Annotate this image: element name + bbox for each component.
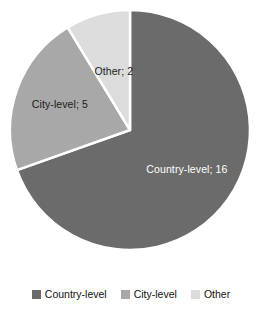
legend-swatch-other-icon [191, 290, 200, 299]
legend-label-other: Other [204, 289, 230, 300]
pie-chart-svg: Country-level; 16 City-level; 5 Other; 2 [0, 0, 262, 262]
legend-label-city-level: City-level [134, 289, 177, 300]
pie-label-other: Other; 2 [94, 65, 133, 77]
chart-legend: Country-level City-level Other [0, 283, 262, 305]
legend-item-country-level[interactable]: Country-level [32, 289, 107, 300]
legend-swatch-city-level-icon [121, 290, 130, 299]
pie-slices [10, 10, 250, 250]
pie-chart-plot-area: Country-level; 16 City-level; 5 Other; 2 [0, 0, 262, 262]
pie-label-country-level: Country-level; 16 [146, 163, 227, 175]
legend-item-city-level[interactable]: City-level [121, 289, 177, 300]
legend-swatch-country-level-icon [32, 290, 41, 299]
pie-label-city-level: City-level; 5 [32, 98, 88, 110]
legend-label-country-level: Country-level [45, 289, 107, 300]
legend-item-other[interactable]: Other [191, 289, 230, 300]
pie-chart-figure: Country-level; 16 City-level; 5 Other; 2… [0, 0, 262, 326]
